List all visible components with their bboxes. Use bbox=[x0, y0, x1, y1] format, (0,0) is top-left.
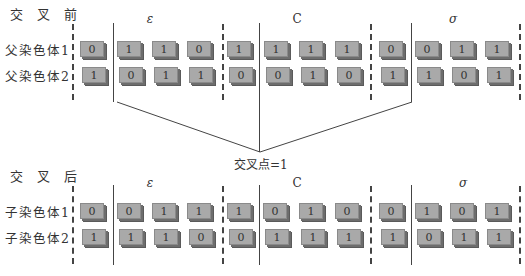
gene-label-epsilon: ε bbox=[140, 176, 160, 190]
gene-tile: 1 bbox=[381, 229, 405, 245]
gene-tile: 0 bbox=[379, 203, 403, 219]
crossover-point-label: 交叉点=1 bbox=[234, 155, 288, 172]
gene-tile: 1 bbox=[82, 229, 106, 245]
gene-tile: 0 bbox=[189, 229, 213, 245]
after-title: 交 叉 后 bbox=[10, 166, 82, 185]
gene-tile: 1 bbox=[301, 229, 325, 245]
gene-tile: 0 bbox=[450, 203, 474, 219]
divider-dashed bbox=[222, 186, 224, 264]
divider-dashed bbox=[72, 186, 74, 264]
gene-tile: 1 bbox=[265, 229, 289, 245]
child2-label: 子染色体2 bbox=[5, 228, 70, 247]
gene-label-c: C bbox=[287, 176, 307, 190]
gene-tile: 1 bbox=[154, 229, 178, 245]
gene-tile: 1 bbox=[299, 203, 323, 219]
gene-tile: 1 bbox=[337, 229, 361, 245]
gene-tile: 1 bbox=[187, 203, 211, 219]
divider-solid bbox=[411, 185, 412, 265]
gene-tile: 0 bbox=[263, 203, 287, 219]
gene-tile: 1 bbox=[487, 229, 511, 245]
gene-label-sigma: σ bbox=[453, 176, 473, 190]
gene-tile: 0 bbox=[80, 203, 104, 219]
divider-dashed bbox=[519, 186, 521, 264]
gene-tile: 0 bbox=[117, 203, 141, 219]
gene-tile: 0 bbox=[229, 229, 253, 245]
gene-tile: 1 bbox=[152, 203, 176, 219]
gene-tile: 1 bbox=[485, 203, 509, 219]
child1-label: 子染色体1 bbox=[5, 202, 70, 221]
crossover-lines bbox=[0, 0, 525, 276]
gene-tile: 1 bbox=[452, 229, 476, 245]
divider-solid bbox=[259, 185, 260, 265]
gene-tile: 1 bbox=[119, 229, 143, 245]
gene-tile: 0 bbox=[417, 229, 441, 245]
divider-dashed bbox=[370, 186, 372, 264]
gene-tile: 0 bbox=[335, 203, 359, 219]
divider-solid bbox=[113, 185, 114, 265]
gene-tile: 1 bbox=[415, 203, 439, 219]
gene-tile: 1 bbox=[227, 203, 251, 219]
